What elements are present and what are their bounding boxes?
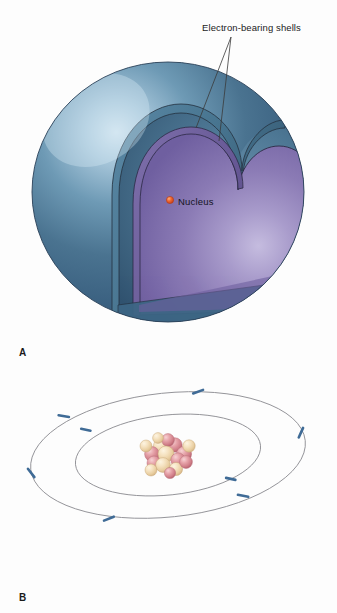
bohr-atom-illustration xyxy=(0,370,337,613)
neutron xyxy=(153,433,164,444)
neutron xyxy=(183,440,195,452)
cutaway-atom-illustration xyxy=(0,0,337,370)
neutron xyxy=(140,440,152,452)
proton xyxy=(164,467,175,478)
panel-a-letter: A xyxy=(19,347,27,358)
neutron xyxy=(145,464,157,476)
electron-dash xyxy=(236,493,249,498)
nucleon-cluster xyxy=(140,433,195,479)
panel-a-cutaway-sphere: Electron-bearing shells Nucleus A xyxy=(0,0,337,370)
electron-bearing-shells-label: Electron-bearing shells xyxy=(202,22,301,33)
nucleus-label: Nucleus xyxy=(178,196,214,207)
panel-b-bohr-model: Protons (8 are present) Neutrons (usuall… xyxy=(0,370,337,613)
panel-b-letter: B xyxy=(19,592,27,603)
electron-dash xyxy=(80,427,92,432)
nucleus-dot xyxy=(166,196,173,203)
proton xyxy=(180,456,193,469)
figure-root: Electron-bearing shells Nucleus A xyxy=(0,0,337,613)
proton xyxy=(162,434,175,447)
electron-dash xyxy=(57,414,70,419)
